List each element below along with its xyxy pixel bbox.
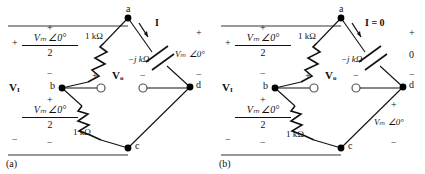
output-terminal-right-b bbox=[352, 84, 360, 92]
node-label-c-b: c bbox=[348, 141, 352, 151]
source-lower-minus-b: − bbox=[260, 138, 266, 148]
source-lower-plus-a: + bbox=[47, 95, 53, 105]
capacitor-label-b: −j kΩ bbox=[341, 55, 362, 64]
circuit-panel-b: a b c d 1 kΩ 1 kΩ −j kΩ Vₘ ∠0° 2 + − Vₘ … bbox=[213, 0, 425, 174]
resistor-top-label-a: 1 kΩ bbox=[85, 32, 103, 41]
node-dot-c-b bbox=[338, 145, 345, 152]
output-minus-a: − bbox=[140, 71, 146, 81]
right-minus-b: − bbox=[409, 70, 415, 80]
circuit-schematic-a bbox=[0, 0, 212, 174]
node-label-d-b: d bbox=[409, 80, 414, 90]
wire-a-to-capacitor-b bbox=[341, 18, 365, 52]
left-outer-plus-a: + bbox=[12, 38, 18, 48]
wire-a-to-resistor-top-a bbox=[104, 18, 128, 43]
output-minus-b: − bbox=[353, 71, 359, 81]
source-lower-numerator-a: Vₘ ∠0° bbox=[22, 105, 78, 115]
panel-caption-a: (a) bbox=[6, 158, 17, 169]
source-upper-numerator-b: Vₘ ∠0° bbox=[235, 33, 291, 43]
wire-a-to-resistor-top-b bbox=[317, 18, 341, 43]
wire-d-to-c-a bbox=[128, 87, 190, 148]
source-upper-denominator-b: 2 bbox=[235, 47, 291, 58]
wire-a-to-capacitor-a bbox=[128, 18, 152, 52]
wire-capacitor-to-d-a bbox=[167, 66, 190, 87]
node-label-c-a: c bbox=[135, 141, 139, 151]
input-voltage-label-a: VI bbox=[9, 82, 20, 94]
node-label-a-a: a bbox=[126, 4, 130, 14]
source-lower-fraction-bar-a bbox=[22, 117, 78, 118]
node-label-b-a: b bbox=[50, 81, 55, 91]
right-plus-b: + bbox=[409, 28, 415, 38]
right-branch-voltage-a: Vₘ ∠0° bbox=[175, 50, 205, 59]
source-upper-numerator-a: Vₘ ∠0° bbox=[22, 33, 78, 43]
source-lower-minus-a: − bbox=[47, 138, 53, 148]
source-upper-minus-b: − bbox=[260, 69, 266, 79]
source-upper-plus-b: + bbox=[260, 23, 266, 33]
source-lower-denominator-a: 2 bbox=[22, 119, 78, 130]
node-dot-a-a bbox=[125, 15, 132, 22]
node-label-a-b: a bbox=[339, 4, 343, 14]
lower-right-plus-b: + bbox=[391, 100, 397, 110]
source-upper-denominator-a: 2 bbox=[22, 47, 78, 58]
right-minus-a: − bbox=[196, 70, 202, 80]
panel-caption-b: (b) bbox=[219, 158, 231, 169]
source-upper-fraction-bar-b bbox=[235, 45, 291, 46]
node-dot-b-b bbox=[272, 85, 279, 92]
source-lower-fraction-bar-b bbox=[235, 117, 291, 118]
output-voltage-label-a: Vo bbox=[112, 70, 123, 82]
left-outer-minus-a: − bbox=[12, 135, 18, 145]
wire-resistor-bottom-to-c-b bbox=[314, 140, 341, 148]
output-terminal-left-a bbox=[97, 84, 105, 92]
source-lower-denominator-b: 2 bbox=[235, 119, 291, 130]
lower-right-minus-b: − bbox=[391, 138, 397, 148]
node-dot-b-a bbox=[59, 85, 66, 92]
source-upper-a: Vₘ ∠0° 2 bbox=[22, 33, 78, 58]
capacitor-plate-2-a bbox=[152, 54, 174, 70]
wire-capacitor-to-d-b bbox=[380, 66, 403, 87]
source-upper-fraction-bar-a bbox=[22, 45, 78, 46]
wire-resistor-top-to-b-b bbox=[275, 82, 301, 88]
figure-root: a b c d 1 kΩ 1 kΩ −j kΩ Vₘ ∠0° 2 + − Vₘ … bbox=[0, 0, 425, 174]
capacitor-plate-2-b bbox=[365, 54, 387, 70]
source-upper-plus-a: + bbox=[47, 23, 53, 33]
lower-right-voltage-label-b: Vₘ ∠0° bbox=[374, 118, 404, 127]
output-terminal-left-b bbox=[310, 84, 318, 92]
node-label-b-b: b bbox=[263, 81, 268, 91]
current-label-a: I bbox=[155, 18, 159, 28]
capacitor-label-a: −j kΩ bbox=[128, 55, 149, 64]
source-lower-b: Vₘ ∠0° 2 bbox=[235, 105, 291, 130]
output-voltage-label-b: Vo bbox=[325, 70, 336, 82]
wire-resistor-bottom-to-c-a bbox=[101, 140, 128, 148]
source-lower-a: Vₘ ∠0° 2 bbox=[22, 105, 78, 130]
input-voltage-label-b: VI bbox=[222, 82, 233, 94]
right-plus-a: + bbox=[196, 28, 202, 38]
node-label-d-a: d bbox=[196, 80, 201, 90]
node-dot-d-a bbox=[187, 84, 194, 91]
circuit-panel-a: a b c d 1 kΩ 1 kΩ −j kΩ Vₘ ∠0° 2 + − Vₘ … bbox=[0, 0, 212, 174]
node-dot-c-a bbox=[125, 145, 132, 152]
left-outer-minus-b: − bbox=[225, 135, 231, 145]
source-lower-plus-b: + bbox=[260, 95, 266, 105]
current-label-b: I = 0 bbox=[365, 18, 385, 28]
source-upper-b: Vₘ ∠0° 2 bbox=[235, 33, 291, 58]
resistor-top-label-b: 1 kΩ bbox=[298, 32, 316, 41]
source-lower-numerator-b: Vₘ ∠0° bbox=[235, 105, 291, 115]
node-dot-a-b bbox=[338, 15, 345, 22]
node-dot-d-b bbox=[400, 84, 407, 91]
left-outer-plus-b: + bbox=[225, 38, 231, 48]
resistor-bottom-label-b: 1 kΩ bbox=[286, 130, 304, 139]
source-upper-minus-a: − bbox=[47, 69, 53, 79]
output-terminal-right-a bbox=[139, 84, 147, 92]
output-plus-b: + bbox=[305, 71, 311, 81]
wire-resistor-top-to-b-a bbox=[62, 82, 88, 88]
capacitor-voltage-label-b: 0 bbox=[409, 50, 414, 60]
output-plus-a: + bbox=[92, 71, 98, 81]
